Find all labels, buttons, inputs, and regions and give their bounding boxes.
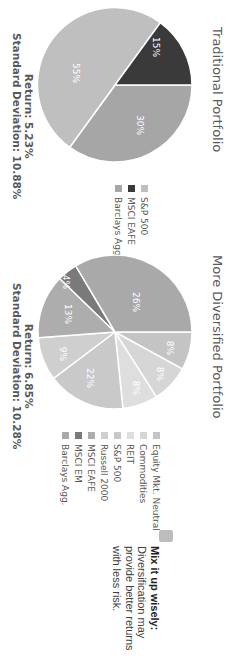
chart1-label-msci-eafe: 15% — [151, 37, 161, 57]
legend-label: Commodities — [139, 444, 149, 503]
swatch-icon — [127, 432, 134, 439]
chart1-stats: Return: 5.23% Standard Deviation: 10.88% — [11, 33, 35, 199]
chart2-legend-item: Russell 2000 — [98, 432, 111, 531]
chart1-return: Return: 5.23% — [23, 33, 35, 199]
chart2-label-commodities: 8% — [155, 367, 165, 382]
chart2-label-reit: 8% — [131, 381, 141, 396]
chart2-legend-item: MSCI EM — [72, 432, 85, 531]
chart2-legend-item: REIT — [124, 432, 137, 531]
chart1-label-barclays: 30% — [135, 115, 145, 135]
chart2-std-dev: Standard Deviation: 10.28% — [11, 283, 23, 449]
chart1-label-sp500: 55% — [71, 63, 81, 83]
chart2-pie: 8% 8% 8% 22% 9% 13% 4% 26% — [35, 252, 195, 412]
chart2-legend-item: Commodities — [137, 432, 150, 531]
swatch-icon — [141, 185, 148, 192]
chart1-legend-item: S&P 500 — [138, 185, 151, 258]
legend-label: MSCI EAFE — [87, 444, 97, 492]
chart2-title: More Diversified Portfolio — [210, 255, 225, 418]
chart2-label-eafe: 13% — [63, 304, 73, 324]
chart1-pie: 30% 55% 15% — [35, 5, 195, 165]
chart1-legend-item: Barclays Agg. — [112, 185, 125, 258]
swatch-icon — [75, 432, 82, 439]
legend-label: S&P 500 — [113, 444, 123, 482]
swatch-icon — [153, 432, 160, 439]
legend-label: MSCI EM — [74, 444, 84, 483]
chart2-label-equity: 8% — [165, 341, 175, 356]
swatch-icon — [140, 432, 147, 439]
chart1-std-dev: Standard Deviation: 10.88% — [11, 33, 23, 199]
portfolio-comparison-figure: Traditional Portfolio 30% 55% 15% Return… — [0, 0, 233, 664]
swatch-icon — [128, 185, 135, 192]
chart2-label-barclays: 26% — [131, 292, 141, 312]
chart2-legend-item: MSCI EAFE — [85, 432, 98, 531]
callout-heading: Mix it up wisely: — [149, 546, 162, 651]
callout-note: Mix it up wisely: Diversification may pr… — [111, 546, 161, 651]
legend-label: MSCI EAFE — [127, 197, 137, 245]
legend-label: Barclays Agg. — [114, 197, 124, 258]
swatch-icon — [88, 432, 95, 439]
chart1-legend-item: MSCI EAFE — [125, 185, 138, 258]
chart2-legend: Equity Mkt. Neutral Commodities REIT S&P… — [59, 432, 163, 531]
chart2-legend-item: Equity Mkt. Neutral — [150, 432, 163, 531]
callout-line: Diversification may — [136, 546, 149, 651]
swatch-icon — [115, 185, 122, 192]
legend-label: S&P 500 — [140, 197, 150, 235]
callout-line: provide better returns — [124, 546, 137, 651]
legend-label: Russell 2000 — [100, 444, 110, 501]
chart2-stats: Return: 6.85% Standard Deviation: 10.28% — [11, 283, 35, 449]
chart1-legend: S&P 500 MSCI EAFE Barclays Agg. — [112, 185, 151, 258]
legend-label: Barclays Agg. — [61, 444, 71, 505]
swatch-icon — [114, 432, 121, 439]
chart2-return: Return: 6.85% — [23, 283, 35, 449]
chart2-label-sp500: 22% — [85, 368, 95, 388]
swatch-icon — [101, 432, 108, 439]
legend-label: REIT — [126, 444, 136, 464]
chart2-label-em: 4% — [61, 275, 71, 290]
legend-label: Equity Mkt. Neutral — [152, 444, 162, 531]
callout-marker-icon — [159, 530, 173, 542]
swatch-icon — [62, 432, 69, 439]
chart2-legend-item: S&P 500 — [111, 432, 124, 531]
callout-line: with less risk. — [111, 546, 124, 651]
chart2-label-russell: 9% — [58, 347, 68, 362]
chart2-legend-item: Barclays Agg. — [59, 432, 72, 531]
chart1-title: Traditional Portfolio — [210, 27, 225, 152]
